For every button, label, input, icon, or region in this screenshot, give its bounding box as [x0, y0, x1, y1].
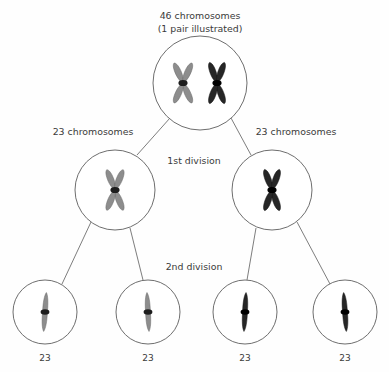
centromere-icon: [178, 80, 187, 86]
centromere-icon: [144, 309, 153, 314]
second-division-label: 2nd division: [166, 261, 223, 272]
meiosis-diagram: 46 chromosomes (1 pair illustrated) 23 c…: [0, 0, 389, 372]
centromere-icon: [110, 187, 119, 193]
daughter-cell-right[interactable]: [232, 150, 312, 230]
gamete-cell-2[interactable]: [116, 280, 180, 344]
gamete-4-count-label: 23: [339, 353, 350, 363]
gamete-3-count-label: 23: [239, 353, 250, 363]
daughter-cell-left[interactable]: [75, 150, 155, 230]
centromere-icon: [241, 309, 250, 314]
parent-cell-membrane: [153, 36, 247, 130]
gamete-cell-3[interactable]: [213, 280, 277, 344]
left-daughter-count-label: 23 chromosomes: [53, 126, 134, 137]
connector-left-to-gamete1: [62, 222, 91, 284]
first-division-label: 1st division: [167, 155, 220, 166]
meiosis-diagram-canvas: 46 chromosomes (1 pair illustrated) 23 c…: [0, 0, 389, 372]
gamete-cell-4[interactable]: [313, 280, 377, 344]
parent-cell[interactable]: [153, 36, 247, 130]
centromere-icon: [341, 309, 350, 314]
connector-right-to-gamete4: [297, 222, 330, 284]
connector-right-to-gamete3: [247, 228, 256, 280]
centromere-icon: [41, 309, 50, 314]
centromere-icon: [267, 187, 276, 193]
gamete-1-count-label: 23: [39, 353, 50, 363]
parent-chromosome-count-label: 46 chromosomes: [160, 10, 241, 21]
gamete-cell-1[interactable]: [13, 280, 77, 344]
gamete-2-count-label: 23: [142, 353, 153, 363]
connector-left-to-gamete2: [130, 228, 143, 280]
connector-parent-to-left: [137, 118, 170, 155]
centromere-icon: [212, 80, 221, 86]
connector-parent-to-right: [231, 118, 251, 155]
right-daughter-count-label: 23 chromosomes: [256, 126, 337, 137]
parent-pair-note-label: (1 pair illustrated): [158, 23, 243, 34]
